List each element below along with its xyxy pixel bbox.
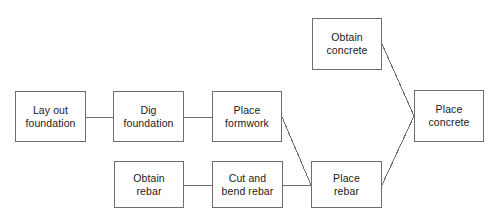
node-place-concrete[interactable]: Place concrete: [414, 90, 484, 142]
flowchart-diagram: Lay out foundationDig foundationPlace fo…: [0, 0, 496, 224]
edge-place-rebar-to-place-concrete: [382, 116, 414, 185]
edge-place-formwork-to-place-rebar: [282, 117, 311, 185]
edge-obtain-concrete-to-place-concrete: [382, 44, 414, 116]
node-cut-and-bend-rebar[interactable]: Cut and bend rebar: [212, 161, 283, 208]
node-place-rebar[interactable]: Place rebar: [311, 161, 382, 208]
node-lay-out-foundation[interactable]: Lay out foundation: [15, 91, 86, 142]
node-obtain-concrete[interactable]: Obtain concrete: [312, 18, 382, 70]
node-label-obtain-rebar: Obtain rebar: [133, 172, 165, 198]
node-label-place-rebar: Place rebar: [333, 172, 360, 198]
node-label-obtain-concrete: Obtain concrete: [326, 31, 367, 57]
node-obtain-rebar[interactable]: Obtain rebar: [114, 161, 184, 208]
node-label-place-formwork: Place formwork: [225, 104, 269, 130]
node-label-lay-out-foundation: Lay out foundation: [25, 104, 75, 130]
node-label-place-concrete: Place concrete: [428, 103, 469, 129]
node-place-formwork[interactable]: Place formwork: [212, 91, 282, 142]
node-label-cut-and-bend-rebar: Cut and bend rebar: [222, 172, 274, 198]
node-label-dig-foundation: Dig foundation: [123, 104, 173, 130]
node-dig-foundation[interactable]: Dig foundation: [113, 91, 184, 142]
